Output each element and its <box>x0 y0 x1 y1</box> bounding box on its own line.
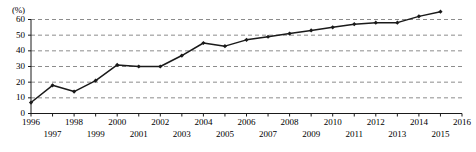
x-axis-tick-label: 2010 <box>316 118 350 127</box>
data-point-marker <box>223 44 227 48</box>
data-point-marker <box>244 38 248 42</box>
x-axis-tick-label: 2011 <box>337 130 371 139</box>
x-axis-tick-label: 2013 <box>380 130 414 139</box>
data-line <box>31 12 440 103</box>
y-axis-tick-label: 50 <box>5 31 25 40</box>
x-axis-tick-label: 1996 <box>14 118 48 127</box>
x-axis-tick-label: 2004 <box>186 118 220 127</box>
x-axis-tick-label: 2012 <box>359 118 393 127</box>
x-axis-tick-label: 2001 <box>122 130 156 139</box>
x-axis-tick-label: 2003 <box>165 130 199 139</box>
x-axis-tick-label: 2015 <box>423 130 457 139</box>
data-point-marker <box>352 22 356 26</box>
x-axis-tick-label: 2006 <box>230 118 264 127</box>
x-axis-tick-label: 1998 <box>57 118 91 127</box>
x-axis-tick-label: 2000 <box>100 118 134 127</box>
data-point-marker <box>137 64 141 68</box>
data-point-marker <box>417 14 421 18</box>
data-point-marker <box>395 21 399 25</box>
x-axis-tick-label: 2002 <box>143 118 177 127</box>
x-axis-tick-label: 2005 <box>208 130 242 139</box>
data-point-marker <box>374 21 378 25</box>
data-point-marker <box>438 10 442 14</box>
x-axis-tick-label: 2008 <box>273 118 307 127</box>
x-axis-tick-label: 1997 <box>36 130 70 139</box>
x-axis-tick-label: 2016 <box>445 118 476 127</box>
y-axis-tick-label: 60 <box>5 15 25 24</box>
x-axis-tick-label: 2014 <box>402 118 436 127</box>
data-point-marker <box>331 25 335 29</box>
x-axis-tick-label: 2009 <box>294 130 328 139</box>
line-chart: (%) 6050403020100 1996199719981999200020… <box>0 0 476 152</box>
data-point-marker <box>309 28 313 32</box>
x-axis-tick-label: 2007 <box>251 130 285 139</box>
y-axis-tick-label: 40 <box>5 46 25 55</box>
y-axis-tick-label: 20 <box>5 78 25 87</box>
x-axis-tick-label: 1999 <box>79 130 113 139</box>
y-axis-tick-label: 10 <box>5 93 25 102</box>
y-axis-tick-label: 30 <box>5 62 25 71</box>
